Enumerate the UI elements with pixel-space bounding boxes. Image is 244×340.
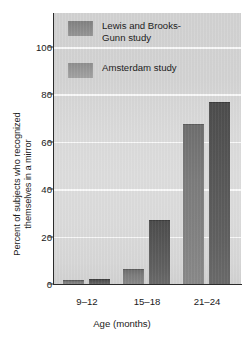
plot-area: Lewis and Brooks- Gunn study Amsterdam s… <box>53 13 241 284</box>
bar-lewis-21-24 <box>183 124 204 284</box>
y-tick-label-20: 20 <box>12 231 52 242</box>
x-axis-title: Age (months) <box>0 318 244 329</box>
bar-amsterdam-15-18 <box>149 220 170 284</box>
legend-item-amsterdam: Amsterdam study <box>68 63 177 78</box>
bar-amsterdam-21-24 <box>209 102 230 285</box>
legend-label-lewis: Lewis and Brooks- Gunn study <box>102 20 181 43</box>
legend-item-lewis: Lewis and Brooks- Gunn study <box>68 21 181 43</box>
x-tick-label-21-24: 21–24 <box>172 296 242 307</box>
gridline-80 <box>53 94 241 96</box>
y-axis-line <box>53 13 54 285</box>
bar-chart-figure: Percent of subjects who recognized thems… <box>0 0 244 340</box>
y-tick-label-60: 60 <box>12 136 52 147</box>
y-tick-label-80: 80 <box>12 89 52 100</box>
y-tick-label-0: 0 <box>12 279 52 290</box>
x-axis-line <box>53 284 242 285</box>
legend-swatch-lewis-icon <box>68 21 93 36</box>
legend-swatch-amsterdam-icon <box>68 63 93 78</box>
bar-lewis-15-18 <box>123 269 144 284</box>
y-tick-label-100: 100 <box>12 42 52 53</box>
legend-label-amsterdam: Amsterdam study <box>102 62 177 74</box>
y-tick-label-40: 40 <box>12 184 52 195</box>
gridline-100 <box>53 47 241 49</box>
